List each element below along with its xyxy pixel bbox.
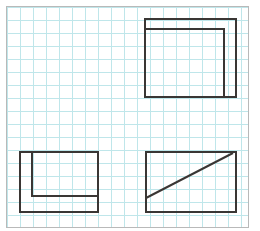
rectangle-with-diagonal[interactable] [146, 152, 236, 212]
inner-l-line [32, 152, 98, 196]
outer-rectangle [146, 152, 236, 212]
worksheet-page: Orthographic Views Grid Worksheet [0, 0, 260, 231]
stepped-rectangle-top-right[interactable] [145, 19, 236, 97]
figures-layer [0, 0, 260, 231]
outer-rectangle [145, 19, 236, 97]
diagonal-line [146, 153, 233, 198]
stepped-rectangle-bottom-left[interactable] [20, 152, 98, 212]
inner-l-line [145, 29, 224, 97]
